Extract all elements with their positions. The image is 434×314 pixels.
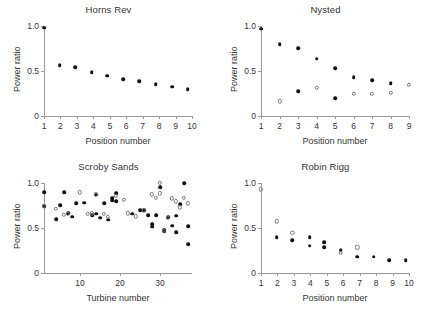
data-point-filled: [174, 230, 178, 234]
data-point-filled: [114, 199, 118, 203]
x-axis-label: Position number: [302, 293, 367, 303]
data-point-filled: [296, 89, 300, 93]
panel-title: Robin Rigg: [217, 161, 434, 172]
data-point-filled: [308, 236, 312, 240]
x-axis-line: [44, 273, 192, 274]
x-tick-label: 3: [296, 121, 301, 131]
data-point-filled: [146, 214, 150, 218]
x-tick-label: 10: [75, 278, 84, 288]
data-point-filled: [70, 215, 74, 219]
data-point-open: [314, 85, 318, 89]
data-point-filled: [74, 201, 78, 205]
data-point-filled: [323, 246, 327, 250]
x-tick-label: 6: [124, 121, 129, 131]
x-tick-label: 10: [187, 121, 196, 131]
x-tick: [80, 273, 81, 276]
x-tick-label: 2: [277, 121, 282, 131]
data-point-filled: [404, 259, 408, 263]
y-tick: [41, 71, 44, 72]
x-tick-label: 9: [407, 121, 412, 131]
data-point-open: [339, 251, 343, 255]
data-point-filled: [296, 46, 300, 50]
y-tick-label: 0.5: [244, 66, 256, 76]
y-tick: [41, 273, 44, 274]
data-point-filled: [186, 224, 190, 228]
data-point-open: [158, 191, 162, 195]
panel-title: Horns Rev: [0, 4, 217, 15]
data-point-filled: [174, 214, 178, 218]
x-tick-label: 9: [390, 278, 395, 288]
y-axis-line: [261, 183, 262, 273]
x-tick-label: 1: [42, 121, 47, 131]
data-point-open: [186, 201, 190, 205]
data-point-filled: [106, 74, 110, 78]
x-tick-label: 30: [155, 278, 164, 288]
x-tick-label: 4: [91, 121, 96, 131]
x-tick: [393, 273, 394, 276]
x-tick: [327, 273, 328, 276]
x-tick-label: 1: [259, 278, 264, 288]
plot-area-nysted: 1.0 0.5 0 123456789: [261, 26, 409, 116]
x-tick-label: 4: [314, 121, 319, 131]
panel-horns-rev: Horns Rev Power ratio 1.0 0.5 0 12345678…: [0, 0, 217, 157]
data-point-filled: [290, 238, 294, 242]
plot-area-robin-rigg: 1.0 0.5 0 12345678910: [261, 183, 409, 273]
x-tick: [261, 116, 262, 119]
x-tick-label: 9: [173, 121, 178, 131]
data-point-filled: [323, 240, 327, 244]
x-tick: [391, 116, 392, 119]
data-point-open: [166, 216, 170, 220]
data-point-filled: [102, 201, 106, 205]
y-tick-label: 1.0: [27, 21, 39, 31]
y-tick-label: 0: [34, 268, 39, 278]
x-tick: [192, 116, 193, 119]
x-tick-label: 1: [259, 121, 264, 131]
x-tick: [60, 116, 61, 119]
x-tick-label: 3: [75, 121, 80, 131]
data-point-filled: [259, 27, 263, 31]
data-point-open: [355, 245, 359, 249]
x-tick: [310, 273, 311, 276]
x-tick: [176, 116, 177, 119]
plot-area-scroby-sands: 1.0 0.5 0 102030: [44, 183, 192, 273]
data-point-open: [274, 219, 278, 223]
x-tick-label: 5: [107, 121, 112, 131]
data-point-filled: [158, 185, 162, 189]
data-point-filled: [275, 236, 279, 240]
multi-panel-scatter-figure: Horns Rev Power ratio 1.0 0.5 0 12345678…: [0, 0, 434, 314]
data-point-filled: [333, 67, 337, 71]
x-tick: [317, 116, 318, 119]
data-point-filled: [278, 42, 282, 46]
x-tick: [143, 116, 144, 119]
plot-area-horns-rev: 1.0 0.5 0 12345678910: [44, 26, 192, 116]
y-tick-label: 0.5: [27, 66, 39, 76]
data-point-filled: [54, 217, 58, 221]
data-point-open: [388, 90, 392, 94]
x-tick: [409, 273, 410, 276]
panel-scroby-sands: Scroby Sands Power ratio 1.0 0.5 0 10203…: [0, 157, 217, 314]
data-point-filled: [73, 66, 77, 70]
data-point-filled: [106, 218, 110, 222]
y-tick-label: 1.0: [244, 178, 256, 188]
data-point-filled: [90, 71, 94, 75]
data-point-filled: [58, 63, 62, 67]
data-point-open: [407, 82, 411, 86]
x-axis-label: Turbine number: [86, 293, 149, 303]
x-tick: [159, 116, 160, 119]
x-tick: [277, 273, 278, 276]
x-axis-label: Position number: [302, 136, 367, 146]
y-tick-label: 0: [34, 111, 39, 121]
panel-title: Nysted: [217, 4, 434, 15]
data-point-filled: [170, 224, 174, 228]
data-point-filled: [370, 79, 374, 83]
data-point-filled: [308, 244, 312, 248]
x-tick-label: 7: [370, 121, 375, 131]
x-axis-label: Position number: [85, 136, 150, 146]
data-point-filled: [186, 242, 190, 246]
data-point-filled: [182, 181, 186, 185]
x-tick: [409, 116, 410, 119]
data-point-filled: [42, 26, 46, 30]
x-tick: [372, 116, 373, 119]
x-tick-label: 4: [308, 278, 313, 288]
y-tick-label: 0: [251, 111, 256, 121]
